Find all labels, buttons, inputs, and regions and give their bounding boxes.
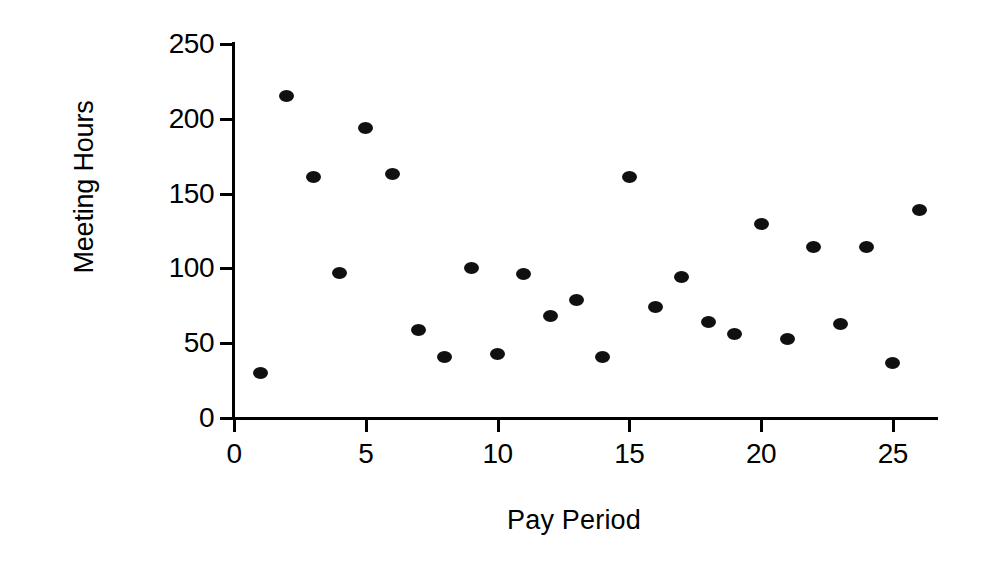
y-tick	[220, 118, 234, 121]
data-point	[912, 204, 927, 216]
data-point	[253, 367, 268, 379]
x-tick-label: 25	[853, 440, 933, 468]
data-point	[332, 267, 347, 279]
y-axis-line	[232, 42, 235, 420]
x-tick	[628, 418, 631, 432]
x-tick-label: 0	[194, 440, 274, 468]
scatter-chart: Meeting Hours Pay Period 050100150200250…	[0, 0, 998, 576]
x-tick	[233, 418, 236, 432]
data-point	[648, 301, 663, 313]
data-point	[885, 357, 900, 369]
y-tick	[220, 267, 234, 270]
data-point	[385, 168, 400, 180]
x-tick	[497, 418, 500, 432]
data-point	[464, 262, 479, 274]
data-point	[727, 328, 742, 340]
x-tick	[365, 418, 368, 432]
y-tick	[220, 342, 234, 345]
data-point	[622, 171, 637, 183]
x-tick-label: 20	[721, 440, 801, 468]
x-tick-label: 15	[589, 440, 669, 468]
data-point	[411, 324, 426, 336]
data-point	[279, 90, 294, 102]
x-tick-label: 10	[458, 440, 538, 468]
data-point	[543, 310, 558, 322]
data-point	[859, 241, 874, 253]
data-point	[701, 316, 716, 328]
data-point	[569, 294, 584, 306]
y-tick	[220, 43, 234, 46]
data-point	[595, 351, 610, 363]
x-tick-label: 5	[326, 440, 406, 468]
x-axis-title: Pay Period	[234, 505, 914, 536]
y-tick-label: 0	[94, 404, 214, 432]
y-tick-label: 250	[94, 30, 214, 58]
data-point	[358, 122, 373, 134]
data-point	[754, 218, 769, 230]
data-point	[780, 333, 795, 345]
y-tick	[220, 193, 234, 196]
y-tick-label: 200	[94, 105, 214, 133]
y-tick-label: 150	[94, 180, 214, 208]
data-point	[490, 348, 505, 360]
x-axis-line	[220, 417, 938, 420]
data-point	[806, 241, 821, 253]
data-point	[437, 351, 452, 363]
y-tick	[220, 417, 234, 420]
data-point	[674, 271, 689, 283]
x-tick	[760, 418, 763, 432]
y-tick-label: 100	[94, 254, 214, 282]
data-point	[306, 171, 321, 183]
x-tick	[892, 418, 895, 432]
data-point	[833, 318, 848, 330]
y-tick-label: 50	[94, 329, 214, 357]
data-point	[516, 268, 531, 280]
